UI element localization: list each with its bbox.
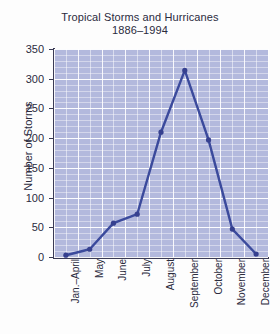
- x-axis-tick-label: September: [189, 259, 200, 308]
- x-axis-tick-labels: Jan.–AprilMayJuneJulyAugustSeptemberOcto…: [54, 259, 268, 334]
- y-axis-tick-label: 150: [0, 163, 50, 173]
- data-point: [111, 221, 116, 226]
- x-axis-tick-label: Jan.–April: [70, 259, 81, 303]
- y-axis-tick-label: 200: [0, 133, 50, 143]
- x-axis-tick-label: June: [117, 259, 128, 281]
- y-axis-tick-label: 100: [0, 193, 50, 203]
- x-axis-tick-label: November: [236, 259, 247, 305]
- data-series-line: [54, 49, 268, 257]
- series-markers: [63, 68, 258, 258]
- data-point: [158, 130, 163, 135]
- series-polyline: [66, 70, 256, 255]
- data-point: [254, 251, 259, 256]
- chart-figure: Tropical Storms and Hurricanes 1886–1994…: [0, 0, 280, 334]
- y-axis-tick-labels: 050100150200250300350: [0, 0, 50, 334]
- x-axis-tick-label: August: [165, 259, 176, 290]
- gridline-horizontal-major: [54, 257, 268, 258]
- x-axis-tick-label: December: [260, 259, 271, 305]
- y-axis-tick-label: 0: [0, 252, 50, 262]
- data-point: [87, 247, 92, 252]
- data-point: [135, 212, 140, 217]
- x-axis-tick-label: October: [213, 259, 224, 295]
- y-axis-tick-label: 250: [0, 103, 50, 113]
- y-axis-tick-label: 350: [0, 44, 50, 54]
- y-axis-tick-label: 50: [0, 222, 50, 232]
- data-point: [63, 253, 68, 258]
- data-point: [182, 68, 187, 73]
- data-point: [230, 226, 235, 231]
- x-axis-tick-label: July: [141, 259, 152, 277]
- y-axis-tick-label: 300: [0, 74, 50, 84]
- data-point: [206, 137, 211, 142]
- gridline-vertical: [268, 49, 269, 257]
- plot-area: [54, 49, 268, 257]
- x-axis-tick-label: May: [94, 259, 105, 278]
